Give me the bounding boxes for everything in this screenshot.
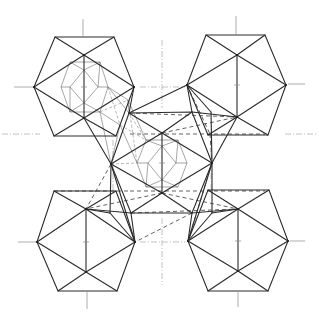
vertex-dot	[285, 84, 287, 86]
edge	[146, 180, 162, 187]
edge	[111, 163, 137, 164]
edge	[238, 271, 268, 291]
edge	[162, 133, 212, 163]
edge	[55, 37, 84, 55]
edge	[212, 117, 237, 163]
vertex-dot	[211, 162, 213, 164]
vertex-dot	[236, 116, 238, 118]
edge	[135, 213, 192, 242]
edge	[34, 87, 84, 118]
edge	[111, 125, 120, 164]
edge	[129, 85, 187, 113]
vertex-dot	[36, 241, 38, 243]
edge	[84, 103, 100, 112]
vertex-dot	[237, 208, 239, 210]
vertex-dot	[161, 132, 163, 134]
edge	[34, 55, 84, 87]
edge	[86, 272, 117, 291]
edge	[84, 55, 134, 87]
vertex-dot	[110, 163, 112, 165]
icosahedron-bottom-left	[36, 191, 136, 291]
edge	[162, 180, 178, 187]
diagram-canvas	[0, 0, 319, 321]
edge	[84, 87, 134, 118]
vertex-dot	[134, 241, 136, 243]
edge	[237, 55, 286, 85]
edge	[237, 117, 268, 135]
icosahedron-center	[110, 112, 213, 213]
edge	[176, 140, 178, 163]
icosahedra-drawing	[0, 0, 319, 321]
vertex-dot	[187, 240, 189, 242]
edge	[208, 271, 238, 291]
edge	[86, 191, 116, 209]
edge	[54, 118, 84, 136]
icosahedron-bottom-right	[187, 190, 289, 291]
edge	[37, 242, 86, 272]
edge	[206, 35, 237, 55]
edge	[237, 85, 286, 117]
vertex-dot	[236, 54, 238, 56]
edge	[86, 164, 111, 209]
vertex-dot	[161, 192, 163, 194]
vertex-dot	[85, 271, 87, 273]
edge	[84, 118, 111, 164]
edge	[84, 37, 114, 55]
vertex-dot	[33, 86, 35, 88]
vertex-dot	[237, 270, 239, 272]
edge	[58, 272, 86, 291]
edge	[110, 164, 111, 213]
edge	[100, 112, 111, 164]
edge	[54, 191, 86, 209]
edge	[146, 163, 148, 187]
vertex-dot	[83, 54, 85, 56]
edge	[111, 133, 162, 164]
edge	[188, 241, 238, 271]
edge	[108, 87, 128, 100]
edge	[187, 55, 237, 85]
edge	[238, 241, 288, 271]
icosahedra	[33, 35, 289, 291]
edge	[237, 35, 265, 55]
edge	[98, 62, 100, 87]
edge	[238, 209, 288, 241]
vertex-dot	[186, 84, 188, 86]
edge	[238, 190, 269, 209]
edge	[100, 112, 120, 125]
icosahedron-top-left	[33, 37, 135, 136]
vertex-dot	[85, 208, 87, 210]
vertex-dot	[133, 86, 135, 88]
guide-lines	[14, 16, 305, 309]
edge	[86, 242, 135, 272]
edge	[37, 209, 86, 242]
icosahedron-top-right	[186, 35, 287, 135]
vertex-dot	[83, 117, 85, 119]
edge	[129, 113, 162, 133]
edge	[188, 209, 238, 241]
vertex-dot	[287, 240, 289, 242]
